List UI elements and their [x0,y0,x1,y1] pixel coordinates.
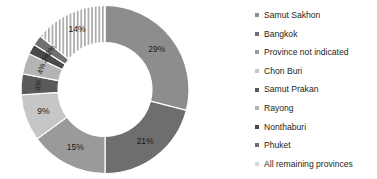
slice-value-label: 9% [37,106,50,116]
chart-legend: Samut SakhonBangkokProvince not indicate… [255,6,377,174]
legend-item[interactable]: Samut Prakan [255,80,377,99]
legend-item-label: Rayong [264,104,294,113]
legend-item-label: Province not indicated [264,48,349,57]
legend-color-swatch-icon [255,13,259,17]
legend-color-swatch-icon [255,162,259,166]
legend-item-label: Chon Buri [264,67,302,76]
slice-value-label: 15% [67,142,84,152]
legend-item[interactable]: Rayong [255,99,377,118]
legend-item-label: Samut Sakhon [264,11,320,20]
legend-color-swatch-icon [255,125,259,129]
legend-item-label: Nonthaburi [264,123,306,132]
legend-item[interactable]: Bangkok [255,25,377,44]
legend-color-swatch-icon [255,69,259,73]
donut-slice[interactable] [105,6,189,111]
donut-chart-area: 29%21%15%9%4%4%2%2%14% [0,0,245,179]
legend-color-swatch-icon [255,50,259,54]
donut-slices [21,6,189,174]
slice-value-label: 21% [137,136,154,146]
legend-item-label: Phuket [264,141,291,150]
legend-item-label: Samut Prakan [264,85,318,94]
legend-item[interactable]: Province not indicated [255,43,377,62]
legend-item[interactable]: All remaining provinces [255,155,377,174]
slice-value-label: 14% [69,24,86,34]
legend-item-label: All remaining provinces [264,160,353,169]
legend-color-swatch-icon [255,106,259,110]
slice-value-label: 29% [148,44,165,54]
donut-chart: 29%21%15%9%4%4%2%2%14% [12,2,232,177]
legend-item[interactable]: Nonthaburi [255,118,377,137]
slice-value-label: 4% [33,79,43,91]
chart-screenshot: 29%21%15%9%4%4%2%2%14% Samut SakhonBangk… [0,0,377,179]
legend-item[interactable]: Phuket [255,136,377,155]
legend-item-label: Bangkok [264,30,297,39]
legend-item[interactable]: Chon Buri [255,62,377,81]
legend-color-swatch-icon [255,88,259,92]
legend-color-swatch-icon [255,32,259,36]
legend-color-swatch-icon [255,143,259,147]
legend-item[interactable]: Samut Sakhon [255,6,377,25]
